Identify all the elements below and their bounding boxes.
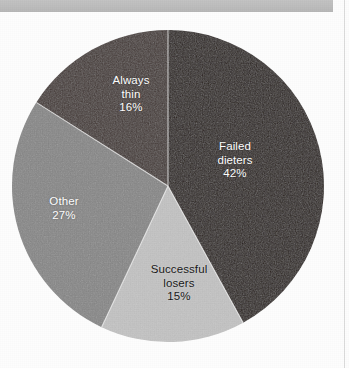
- pie-label-always-thin-line1: Always: [92, 74, 170, 88]
- pie-label-always-thin: Always thin 16%: [92, 74, 170, 115]
- pie-label-successful-losers: Successful losers 15%: [133, 263, 225, 304]
- pie-chart-svg: [0, 0, 349, 368]
- page-root: Failed dieters 42% Always thin 16% Other…: [0, 0, 349, 368]
- pie-label-failed-dieters-line2: dieters: [198, 154, 272, 168]
- pie-chart: Failed dieters 42% Always thin 16% Other…: [0, 0, 349, 368]
- pie-label-successful-losers-value: 15%: [133, 290, 225, 304]
- pie-label-always-thin-value: 16%: [92, 101, 170, 115]
- pie-label-other-value: 27%: [28, 209, 100, 223]
- pie-label-other: Other 27%: [28, 195, 100, 222]
- pie-label-successful-losers-line1: Successful: [133, 263, 225, 277]
- pie-label-successful-losers-line2: losers: [133, 277, 225, 291]
- pie-label-always-thin-line2: thin: [92, 88, 170, 102]
- pie-label-failed-dieters: Failed dieters 42%: [198, 140, 272, 181]
- pie-label-other-line1: Other: [28, 195, 100, 209]
- pie-label-failed-dieters-line1: Failed: [198, 140, 272, 154]
- pie-label-failed-dieters-value: 42%: [198, 167, 272, 181]
